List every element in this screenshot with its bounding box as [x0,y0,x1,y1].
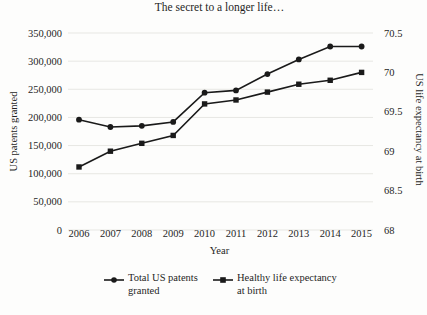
data-point-square [296,82,301,87]
x-tick-label: 2014 [320,228,342,239]
y-left-tick-label: 150,000 [28,140,62,151]
data-point-square [233,97,238,102]
x-tick-label: 2011 [226,228,247,239]
y-left-tick-label: 200,000 [28,112,62,123]
x-tick-label: 2013 [288,228,309,239]
y-right-tick-label: 69.5 [384,106,402,117]
chart-canvas: 050,000100,000150,000200,000250,000300,0… [0,0,427,315]
data-point-square [108,149,113,154]
data-point-square [265,89,270,94]
data-point-square [328,78,333,83]
x-tick-label: 2010 [194,228,215,239]
data-point-square [359,70,364,75]
series-line-circle [79,47,362,127]
x-tick-label: 2012 [257,228,278,239]
x-tick-label: 2009 [163,228,184,239]
x-tick-label: 2006 [69,228,90,239]
data-point-circle [139,123,145,129]
legend-marker-circle-icon [104,275,124,285]
data-point-circle [265,71,271,77]
legend: Total US patents granted Healthy life ex… [0,270,427,310]
x-tick-label: 2008 [131,228,152,239]
data-point-circle [108,124,114,130]
y-left-tick-label: 300,000 [28,56,62,67]
data-point-circle [76,117,82,123]
y-right-tick-label: 70.5 [384,28,402,39]
data-point-square [171,133,176,138]
y-left-tick-label: 250,000 [28,84,62,95]
data-point-circle [296,57,302,63]
y-right-tick-label: 68 [384,225,395,236]
y-left-tick-label: 100,000 [28,168,62,179]
y-right-tick-label: 70 [384,67,395,78]
figure: The secret to a longer life… 050,000100,… [0,0,427,315]
data-point-square [139,141,144,146]
data-point-square [76,164,81,169]
data-point-circle [170,119,176,125]
y-right-tick-label: 68.5 [384,185,402,196]
legend-label-patents: Total US patents granted [128,272,198,297]
y-axis-title-right: US life expectancy at birth [414,60,425,200]
y-left-tick-label: 350,000 [28,28,62,39]
legend-label-life: Healthy life expectancy at birth [237,272,337,297]
x-tick-label: 2015 [351,228,372,239]
y-right-tick-label: 69 [384,146,395,157]
legend-entry-life: Healthy life expectancy at birth [213,272,337,297]
x-tick-label: 2007 [100,228,121,239]
legend-marker-square-icon [213,275,233,285]
y-left-tick-label: 0 [57,225,62,236]
x-axis-title: Year [66,245,373,256]
data-point-circle [202,90,208,96]
data-point-square [202,101,207,106]
data-point-circle [359,44,365,50]
data-point-circle [233,88,239,94]
legend-entry-patents: Total US patents granted [104,272,198,297]
y-left-tick-label: 50,000 [33,196,62,207]
series-line-square [79,72,362,167]
y-axis-title-left: US patents granted [8,62,19,202]
data-point-circle [327,44,333,50]
